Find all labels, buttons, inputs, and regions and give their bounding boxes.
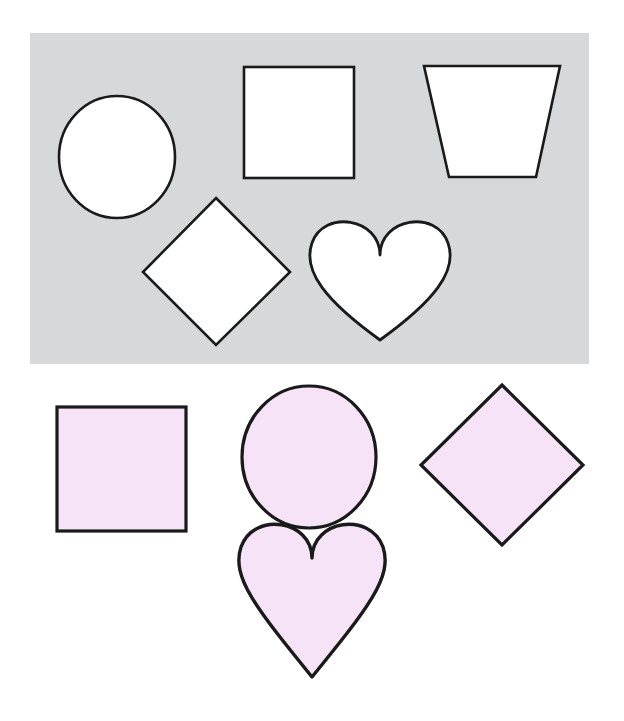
outline-diamond-shape — [143, 198, 290, 345]
word-diamond-shape[interactable] — [421, 385, 583, 545]
outline-square-shape — [244, 67, 354, 178]
outline-trapezoid-shape — [424, 66, 560, 177]
word-heart-shape[interactable] — [239, 524, 385, 677]
outline-heart-shape — [310, 222, 450, 340]
word-square-shape[interactable] — [57, 407, 186, 531]
word-shapes-canvas — [0, 370, 624, 721]
outline-shapes-canvas — [30, 33, 589, 364]
outline-shapes-panel — [30, 33, 589, 364]
word-shapes-group: lo todo que corazón — [0, 370, 624, 721]
outline-circle-shape — [59, 96, 175, 218]
word-circle-shape[interactable] — [242, 386, 376, 528]
